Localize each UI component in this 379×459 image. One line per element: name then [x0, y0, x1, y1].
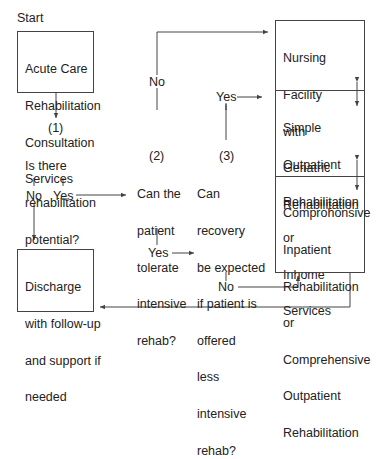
node-line: or: [283, 317, 371, 329]
question-line: Can: [197, 188, 265, 200]
question-line: if patient is: [197, 298, 265, 310]
node-line: Outpatient: [283, 159, 359, 171]
comprehensive-text: Comprohonsive Inpatient Rehabilitation o…: [283, 183, 371, 459]
question-line: potential?: [25, 234, 96, 246]
node-line: Inpatient: [283, 244, 371, 256]
q1-no-label: No: [26, 190, 42, 202]
question-2-number: (2): [149, 150, 164, 162]
question-3-text: Can recovery be expected if patient is o…: [197, 164, 265, 459]
node-line: Nursing: [283, 52, 359, 64]
question-line: less: [197, 371, 265, 383]
discharge-box: Discharge with follow-up and support if …: [17, 249, 94, 312]
node-line: Acute Care: [25, 63, 101, 75]
question-line: be expected: [197, 262, 265, 274]
question-line: Is there: [25, 160, 96, 172]
node-line: with follow-up: [25, 318, 101, 330]
node-line: Outpatient: [283, 390, 371, 402]
comprehensive-box: Comprohonsive Inpatient Rehabilitation o…: [275, 176, 365, 273]
question-line: rehab?: [137, 335, 186, 347]
question-line: patient: [137, 225, 186, 237]
question-line: tolerate: [137, 262, 186, 274]
acute-care-box: Acute Care Rehabilitation Consultation S…: [17, 31, 94, 93]
question-line: Can the: [137, 188, 186, 200]
node-line: Discharge: [25, 281, 101, 293]
start-label: Start: [17, 12, 43, 24]
discharge-text: Discharge with follow-up and support if …: [25, 257, 101, 428]
node-line: Comprehensive: [283, 354, 371, 366]
node-line: Simple: [283, 122, 359, 134]
question-line: intensive: [137, 298, 186, 310]
node-line: Rehabilitation: [283, 427, 371, 439]
question-line: intensive: [197, 408, 265, 420]
q3-no-label: No: [218, 281, 234, 293]
question-2-text: Can the patient tolerate intensive rehab…: [137, 164, 186, 359]
question-line: rehab?: [197, 445, 265, 457]
node-line: Rehabilitation: [25, 100, 101, 112]
q1-yes-label: Yes: [53, 190, 73, 202]
question-line: recovery: [197, 225, 265, 237]
node-line: needed: [25, 391, 101, 403]
node-line: Comprohonsive: [283, 207, 371, 219]
question-1-number: (1): [48, 122, 63, 134]
q3-yes-label: Yes: [216, 91, 236, 103]
node-line: Rehabilitation: [283, 281, 371, 293]
question-line: offered: [197, 335, 265, 347]
q2-no-label: No: [149, 76, 165, 88]
node-line: and support if: [25, 355, 101, 367]
simple-outpatient-box: Simple Outpatient Rehabilitation or Inho…: [275, 90, 365, 177]
question-3-number: (3): [219, 150, 234, 162]
q2-yes-label: Yes: [148, 247, 168, 259]
